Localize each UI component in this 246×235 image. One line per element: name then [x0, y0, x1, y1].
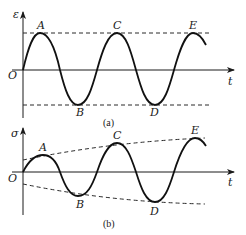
panel-a: ε t O A B C D E (a) [8, 8, 234, 129]
lower-envelope-b [23, 184, 205, 204]
panel-b: σ t O A B C D E (b) [8, 124, 234, 230]
point-c-label: C [113, 19, 122, 32]
t-label-a: t [228, 75, 233, 88]
origin-label-b: O [8, 172, 17, 185]
point-a-label-b: A [38, 141, 47, 154]
caption-a: (a) [103, 117, 114, 129]
strain-wave [23, 33, 206, 105]
point-c-label-b: C [113, 129, 122, 142]
stress-wave [23, 138, 206, 202]
origin-label-a: O [8, 69, 17, 82]
point-d-label: D [149, 106, 159, 119]
point-e-label-b: E [190, 124, 199, 137]
epsilon-label: ε [13, 8, 19, 21]
point-b-label-b: B [75, 198, 84, 211]
t-label-b: t [228, 176, 233, 189]
caption-b: (b) [103, 218, 115, 230]
point-a-label: A [36, 19, 45, 32]
diagram: ε t O A B C D E (a) σ t O A B C D E (b) [0, 0, 246, 235]
point-d-label-b: D [149, 205, 159, 218]
point-b-label: B [75, 106, 84, 119]
point-e-label: E [188, 19, 197, 32]
sigma-label: σ [11, 127, 19, 140]
